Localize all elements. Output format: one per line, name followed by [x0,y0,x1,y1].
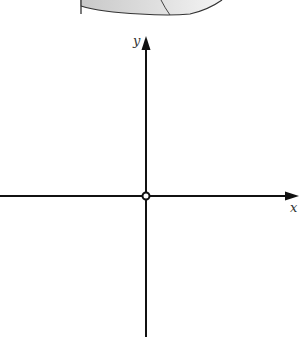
y-axis-arrow-icon [142,36,151,50]
y-axis [142,36,151,337]
x-axis-label: x [290,200,297,215]
coordinate-diagram [0,0,300,337]
origin-marker [143,193,150,200]
shaded-surface-shape [80,0,222,15]
y-axis-label: y [133,33,140,48]
